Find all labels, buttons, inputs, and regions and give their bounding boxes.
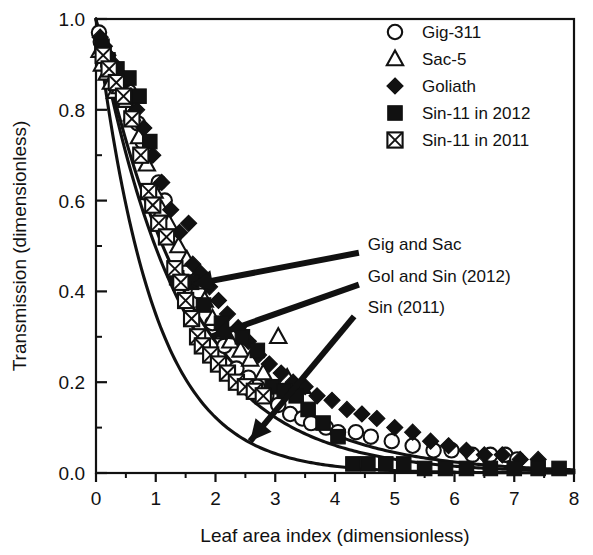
annotation-label-1: Gol and Sin (2012) [368,267,511,286]
data-point-gig-311 [364,429,378,443]
data-point-sin-11-in-2011 [184,311,199,326]
data-point-sin-11-in-2012 [379,457,393,471]
figure-container: 012345678 0.00.20.40.60.81.0 Leaf area i… [0,0,593,555]
data-point-sin-11-in-2011 [178,293,193,308]
x-tick-label-6: 6 [449,488,460,509]
data-point-sin-11-in-2011 [133,148,148,163]
y-tick-label-4: 0.8 [59,100,85,121]
x-tick-label-7: 7 [509,488,520,509]
data-point-gig-311 [388,25,402,39]
data-point-sin-11-in-2012 [250,343,264,357]
x-tick-label-4: 4 [330,488,341,509]
y-tick-label-0: 0.0 [59,463,85,484]
x-tick-label-8: 8 [569,488,580,509]
data-point-sin-11-in-2012 [507,461,521,475]
legend-marker-crossed-square-icon [387,132,402,147]
data-point-sin-11-in-2012 [361,457,375,471]
legend-label-1: Sac-5 [422,50,466,69]
data-point-sin-11-in-2011 [116,89,131,104]
x-axis-title: Leaf area index (dimensionless) [200,525,469,546]
data-point-sin-11-in-2012 [301,402,315,416]
annotation-label-2: Sin (2011) [368,298,445,317]
x-tick-label-5: 5 [389,488,400,509]
data-point-sin-11-in-2012 [483,461,497,475]
data-point-gig-311 [349,425,363,439]
data-point-sin-11-in-2011 [173,275,188,290]
legend-label-3: Sin-11 in 2012 [422,104,530,123]
data-point-sin-11-in-2012 [438,461,452,475]
y-tick-label-5: 1.0 [59,9,85,30]
data-point-sin-11-in-2012 [316,416,330,430]
annotation-label-0: Gig and Sac [368,235,462,254]
data-point-sin-11-in-2012 [331,429,345,443]
y-axis-title: Transmission (dimensionless) [9,121,30,372]
data-point-sin-11-in-2011 [145,198,160,213]
transmission-vs-lai-chart: 012345678 0.00.20.40.60.81.0 Leaf area i… [0,0,593,555]
data-point-sin-11-in-2012 [346,457,360,471]
x-tick-label-0: 0 [91,488,102,509]
y-tick-label-1: 0.2 [59,372,85,393]
data-point-sin-11-in-2012 [388,106,402,120]
legend-marker-filled-square-icon [388,106,402,120]
x-tick-label-1: 1 [150,488,161,509]
legend-marker-open-circle-icon [388,25,402,39]
data-point-sin-11-in-2012 [552,461,566,475]
data-point-sin-11-in-2011 [387,132,402,147]
data-point-sin-11-in-2012 [132,89,146,103]
legend-label-0: Gig-311 [422,23,481,42]
data-point-sin-11-in-2012 [459,461,473,475]
x-tick-label-2: 2 [210,488,221,509]
data-point-sin-11-in-2011 [159,229,174,244]
legend-label-2: Goliath [422,77,476,96]
x-tick-label-3: 3 [270,488,281,509]
legend-label-4: Sin-11 in 2011 [422,131,529,150]
data-point-sin-11-in-2012 [531,461,545,475]
data-point-gig-311 [385,434,399,448]
data-point-sin-11-in-2011 [256,388,271,403]
data-point-sin-11-in-2012 [397,457,411,471]
data-point-sin-11-in-2011 [124,111,139,126]
data-point-sin-11-in-2012 [235,330,249,344]
data-point-sin-11-in-2012 [417,461,431,475]
y-tick-label-3: 0.6 [59,191,85,212]
y-tick-label-2: 0.4 [59,281,86,302]
